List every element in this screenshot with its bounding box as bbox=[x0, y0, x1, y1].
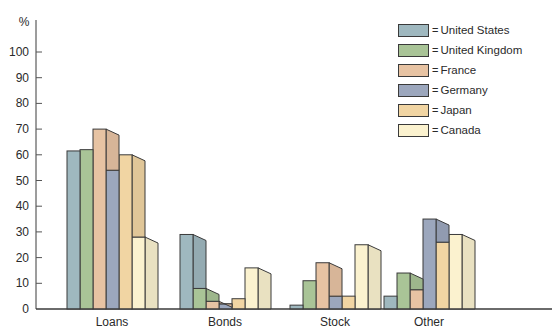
y-tick-label: 50 bbox=[16, 174, 30, 188]
y-tick-label: 90 bbox=[16, 71, 30, 85]
bar-group-other bbox=[384, 219, 475, 309]
category-label: Loans bbox=[96, 315, 129, 329]
legend-label: France bbox=[440, 64, 476, 76]
y-tick-label: 80 bbox=[16, 96, 30, 110]
bar-france bbox=[410, 290, 423, 309]
legend-swatch bbox=[398, 44, 429, 57]
legend-swatch bbox=[398, 24, 429, 37]
bar-side bbox=[106, 129, 119, 170]
legend-item-canada: = Canada bbox=[398, 120, 522, 140]
bar-group-bonds bbox=[180, 234, 271, 309]
category-label: Other bbox=[414, 315, 444, 329]
legend-label: Germany bbox=[440, 84, 487, 96]
bar-side bbox=[436, 219, 449, 242]
bar-united-states bbox=[384, 296, 397, 309]
legend-label: Canada bbox=[440, 124, 480, 136]
bar-united-kingdom bbox=[303, 281, 316, 309]
bar-united-kingdom bbox=[80, 150, 93, 309]
bar-side bbox=[206, 288, 219, 301]
bar-france bbox=[206, 301, 219, 309]
category-label: Bonds bbox=[208, 315, 242, 329]
bar-united-kingdom bbox=[193, 288, 206, 309]
y-tick-label: 10 bbox=[16, 276, 30, 290]
bar-united-states bbox=[67, 151, 80, 309]
bar-canada bbox=[245, 268, 258, 309]
legend-swatch bbox=[398, 104, 429, 117]
legend-item-united-states: = United States bbox=[398, 20, 522, 40]
category-label: Stock bbox=[320, 315, 351, 329]
legend-item-japan: = Japan bbox=[398, 100, 522, 120]
y-tick-label: 60 bbox=[16, 148, 30, 162]
bar-side bbox=[462, 234, 475, 309]
bar-france bbox=[93, 129, 106, 309]
bar-canada bbox=[449, 234, 462, 309]
legend-label: United Kingdom bbox=[440, 44, 522, 56]
legend-item-united-kingdom: = United Kingdom bbox=[398, 40, 522, 60]
bar-united-states bbox=[180, 234, 193, 309]
legend: = United States = United Kingdom = Franc… bbox=[398, 20, 522, 140]
legend-item-germany: = Germany bbox=[398, 80, 522, 100]
bar-united-kingdom bbox=[397, 273, 410, 309]
y-tick-label: 20 bbox=[16, 251, 30, 265]
bar-germany bbox=[329, 296, 342, 309]
y-tick-label: 100 bbox=[9, 45, 29, 59]
bar-side bbox=[132, 155, 145, 237]
legend-swatch bbox=[398, 124, 429, 137]
bar-france bbox=[316, 263, 329, 309]
bar-side bbox=[145, 237, 158, 309]
bar-japan bbox=[436, 242, 449, 309]
legend-swatch bbox=[398, 84, 429, 97]
bar-germany bbox=[106, 170, 119, 309]
bar-side bbox=[368, 245, 381, 309]
y-axis-label: % bbox=[19, 15, 30, 29]
bar-japan bbox=[232, 299, 245, 309]
y-tick-label: 40 bbox=[16, 199, 30, 213]
bar-side bbox=[329, 263, 342, 296]
bar-side bbox=[258, 268, 271, 309]
bar-group-loans bbox=[67, 129, 158, 309]
bar-side bbox=[410, 273, 423, 290]
bar-side bbox=[193, 234, 206, 288]
legend-label: United States bbox=[440, 24, 509, 36]
y-tick-label: 30 bbox=[16, 225, 30, 239]
y-tick-label: 70 bbox=[16, 122, 30, 136]
bar-canada bbox=[132, 237, 145, 309]
y-tick-label: 0 bbox=[22, 302, 29, 316]
bar-group-stock bbox=[290, 245, 381, 309]
bar-japan bbox=[342, 296, 355, 309]
legend-swatch bbox=[398, 64, 429, 77]
legend-label: Japan bbox=[440, 104, 471, 116]
legend-item-france: = France bbox=[398, 60, 522, 80]
bar-canada bbox=[355, 245, 368, 309]
bar-japan bbox=[119, 155, 132, 309]
bar-united-states bbox=[290, 305, 303, 309]
bar-germany bbox=[423, 219, 436, 309]
